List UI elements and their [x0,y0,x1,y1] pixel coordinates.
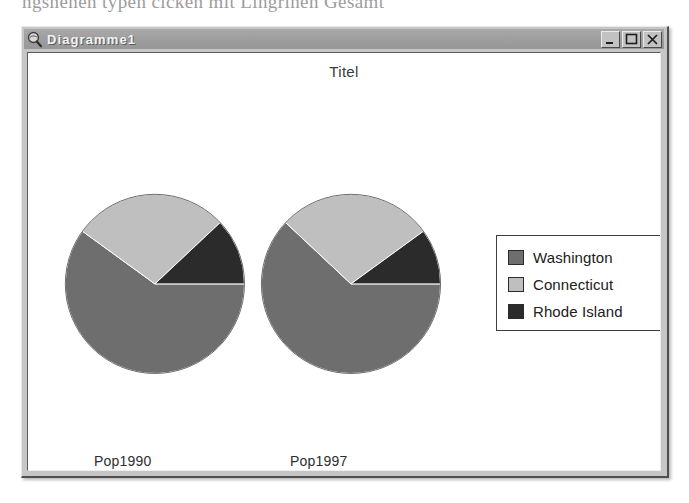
category-label-2: Pop1997 [290,453,347,469]
window-controls [601,31,662,48]
maximize-button[interactable] [622,31,641,48]
chart-legend: Washington Connecticut Rhode Island [496,235,661,331]
close-button[interactable] [643,31,662,48]
minimize-button[interactable] [601,31,620,48]
page-bleed-text: ngsnenen typen cicken mit Lingrinen Gesa… [22,0,442,13]
window-titlebar[interactable]: Diagramme1 [24,29,664,49]
chart-client-area[interactable]: Titel Pop1990 Pop1997 Washington Connect… [27,52,661,471]
legend-swatch-washington [508,250,524,265]
pie-pop1990[interactable] [65,194,244,373]
window-title: Diagramme1 [47,32,601,47]
pie-pop1997[interactable] [261,194,440,373]
legend-swatch-rhode-island [508,304,524,319]
legend-label-rhode-island: Rhode Island [533,303,623,320]
chart-window: Diagramme1 Titel [21,26,669,478]
legend-swatch-connecticut [508,277,524,292]
legend-item-rhode-island[interactable]: Rhode Island [508,298,661,325]
magnifier-icon [26,31,43,48]
legend-label-connecticut: Connecticut [533,276,613,293]
legend-item-washington[interactable]: Washington [508,244,661,271]
legend-label-washington: Washington [533,249,613,266]
category-label-1: Pop1990 [94,453,151,469]
legend-item-connecticut[interactable]: Connecticut [508,271,661,298]
